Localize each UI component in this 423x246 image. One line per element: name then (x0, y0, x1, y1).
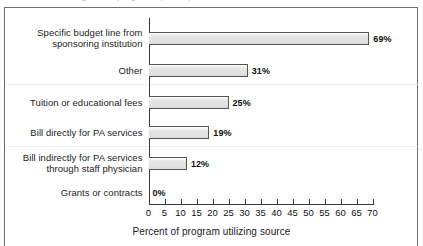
x-axis-tick-label: 25 (223, 207, 234, 218)
x-axis-tick (309, 199, 310, 204)
x-axis-tick (197, 199, 198, 204)
x-axis-tick-label: 0 (146, 207, 151, 218)
bar (149, 64, 248, 77)
x-axis-tick (341, 199, 342, 204)
band-separator (5, 84, 418, 85)
x-axis-tick-label: 70 (367, 207, 378, 218)
x-axis-tick (229, 199, 230, 204)
x-axis-line (149, 204, 374, 205)
x-axis-tick-label: 55 (319, 207, 330, 218)
bar-value-label: 31% (252, 66, 270, 76)
y-axis-spine (149, 18, 150, 204)
bar-value-label: 19% (213, 128, 231, 138)
category-label: Other (0, 65, 143, 76)
bar-value-label: 69% (373, 34, 391, 44)
band-separator (5, 146, 418, 147)
x-axis-tick-label: 15 (191, 207, 202, 218)
bar-chart-figure: Sources of funding for PA programs (cut … (0, 0, 423, 246)
x-axis-tick-label: 20 (207, 207, 218, 218)
x-axis-tick-label: 60 (335, 207, 346, 218)
x-axis-tick-label: 50 (303, 207, 314, 218)
x-axis-tick (245, 199, 246, 204)
cut-off-header-text: Sources of funding for PA programs (cut … (0, 0, 423, 5)
x-axis-tick (357, 199, 358, 204)
bar-value-label: 12% (191, 159, 209, 169)
bar (149, 32, 370, 45)
x-axis-tick (165, 199, 166, 204)
x-axis-tick (293, 199, 294, 204)
category-label: Bill directly for PA services (0, 127, 143, 138)
x-axis-tick-label: 65 (351, 207, 362, 218)
x-axis-tick (149, 199, 150, 204)
x-axis-tick (213, 199, 214, 204)
x-axis-title: Percent of program utilizing source (0, 226, 423, 237)
bar-value-label: 25% (233, 98, 251, 108)
category-label: Bill indirectly for PA services through … (0, 152, 143, 175)
bar-value-label: 0% (153, 188, 166, 198)
x-axis-tick-label: 40 (271, 207, 282, 218)
x-axis-tick-label: 45 (287, 207, 298, 218)
category-label: Grants or contracts (0, 187, 143, 198)
x-axis-tick (373, 199, 374, 204)
category-label: Specific budget line from sponsoring ins… (0, 27, 143, 50)
x-axis-tick (181, 199, 182, 204)
bar (149, 126, 210, 139)
x-axis-tick-label: 10 (175, 207, 186, 218)
category-label: Tuition or educational fees (0, 97, 143, 108)
cut-off-header-label: Sources of funding for PA programs (cut … (8, 0, 192, 1)
x-axis-tick-label: 30 (239, 207, 250, 218)
bar (149, 96, 229, 109)
x-axis-tick (277, 199, 278, 204)
bar (149, 157, 187, 170)
x-axis-tick-label: 35 (255, 207, 266, 218)
x-axis-tick-label: 5 (162, 207, 167, 218)
x-axis-tick (261, 199, 262, 204)
x-axis-tick (325, 199, 326, 204)
